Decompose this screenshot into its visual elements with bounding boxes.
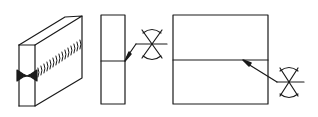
front-view-with-symbol [173, 15, 304, 104]
weld-ripples [38, 40, 81, 77]
weld-diagram [0, 0, 318, 117]
3d-welded-block [17, 16, 82, 106]
weld-bead-front [17, 70, 37, 81]
diagram-svg [0, 0, 318, 117]
end-view-with-symbol [101, 15, 167, 104]
